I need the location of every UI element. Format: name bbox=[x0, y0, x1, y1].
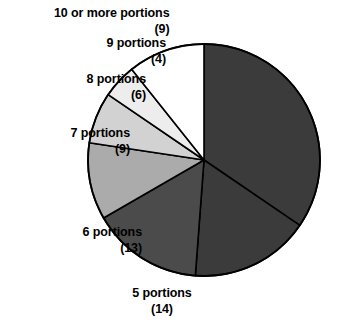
pie-label-nine-name: 9 portions bbox=[44, 36, 166, 52]
pie-label-six-name: 6 portions bbox=[20, 225, 142, 241]
pie-label-ten-or-more-value: (9) bbox=[54, 22, 169, 38]
pie-label-ten-or-more: 10 or more portions (9) bbox=[54, 6, 169, 37]
pie-label-six: 6 portions (13) bbox=[20, 225, 142, 256]
pie-label-eight-name: 8 portions bbox=[20, 72, 146, 88]
pie-label-ten-or-more-name: 10 or more portions bbox=[54, 6, 169, 22]
pie-label-nine-value: (4) bbox=[44, 52, 166, 68]
pie-chart-figure: 10 or more portions (9) 9 portions (4) 8… bbox=[0, 0, 337, 322]
pie-label-eight-value: (6) bbox=[20, 88, 146, 104]
pie-label-five: 5 portions (14) bbox=[104, 286, 220, 317]
pie-label-five-name: 5 portions bbox=[104, 286, 220, 302]
pie-label-eight: 8 portions (6) bbox=[20, 72, 146, 103]
pie-label-seven-name: 7 portions bbox=[4, 126, 130, 142]
pie-label-six-value: (13) bbox=[20, 241, 142, 257]
pie-label-seven: 7 portions (9) bbox=[4, 126, 130, 157]
pie-label-five-value: (14) bbox=[104, 302, 220, 318]
pie-label-nine: 9 portions (4) bbox=[44, 36, 166, 67]
pie-label-seven-value: (9) bbox=[4, 142, 130, 158]
